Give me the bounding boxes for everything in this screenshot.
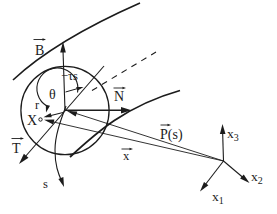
arc-length-label: s [43, 177, 48, 191]
arc-length-arrowhead-icon [58, 177, 64, 187]
point-position-label: x [123, 149, 130, 163]
position-vector-label: P(s) [160, 127, 183, 143]
material-point-marker [39, 118, 42, 121]
radius-arrowhead-icon [44, 113, 52, 117]
frenet-frame-diagram: B −τs θ N r X T P(s) x s x3 x2 x1 [0, 0, 277, 214]
normal-label: N [114, 89, 124, 104]
binormal-label: B [35, 43, 44, 58]
torsion-offset-label: −τs [61, 69, 78, 83]
radius-label: r [35, 98, 40, 112]
axis-x1-line [205, 161, 224, 185]
point-position-arrowhead-icon [44, 120, 54, 125]
axis-x1-sub: 1 [219, 195, 224, 206]
position-arrowhead-icon [67, 111, 77, 117]
material-point-label: X [27, 113, 37, 128]
torsion-arrow-line [66, 88, 79, 92]
dashed-reference-line [92, 52, 156, 91]
axis-x3-label: x3 [227, 126, 239, 143]
axis-x2-label: x2 [251, 169, 263, 186]
axis-x1-arrowhead-icon [200, 182, 208, 192]
position-hat-icon [161, 124, 172, 127]
tangent-label: T [12, 141, 21, 156]
axis-x2-line [224, 161, 244, 178]
tangent-hat-icon [12, 137, 25, 140]
axis-x3-line [223, 131, 224, 161]
axis-x3-sub: 3 [234, 132, 239, 143]
theta-label: θ [49, 87, 56, 102]
axis-x3-arrowhead-icon [220, 124, 226, 134]
axis-x2-sub: 2 [258, 175, 263, 186]
binormal-hat-icon [34, 38, 47, 41]
theta-arc-arrowhead-icon [46, 105, 50, 113]
figure-canvas: B −τs θ N r X T P(s) x s x3 x2 x1 [0, 0, 277, 214]
axis-x1-label: x1 [212, 189, 224, 206]
arc-length-curve [55, 106, 66, 182]
